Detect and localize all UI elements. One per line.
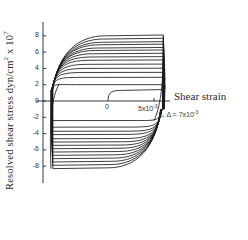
x-tick-label-5e-3: 5x10-3 [138, 103, 158, 112]
x-axis-label: Shear strain [174, 90, 226, 102]
loop-lower-branch [52, 90, 162, 145]
initial-loading-curve [108, 89, 161, 101]
y-tick-label: 8 [27, 31, 39, 38]
y-tick-label: -8 [27, 162, 39, 169]
y-tick-label: -2 [27, 113, 39, 120]
y-tick-label: 0 [27, 97, 39, 104]
y-tick-label: 4 [27, 64, 39, 71]
loop-lower-branch [53, 90, 161, 165]
loop-lower-branch [52, 90, 161, 148]
x-tick-label-0: 0 [105, 103, 109, 110]
y-tick-label: 6 [27, 48, 39, 55]
y-tick-label: -6 [27, 145, 39, 152]
annotation: k, Δ = 7x10-3 [159, 109, 198, 118]
loop-lower-branch [51, 90, 162, 134]
y-axis-label: Resolved shear stress dyn/cm2 x 107 [2, 31, 15, 190]
y-tick-label: -4 [27, 129, 39, 136]
hysteresis-loops [50, 35, 165, 169]
y-tick-label: 2 [27, 80, 39, 87]
